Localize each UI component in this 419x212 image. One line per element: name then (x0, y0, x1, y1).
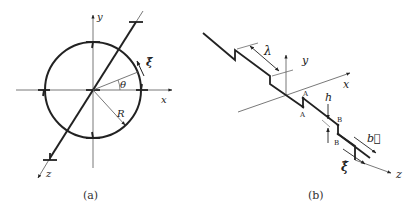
z-axis-label-b: z (395, 168, 402, 181)
burgers-vector-label: b⃗ (367, 132, 381, 145)
xi-hat-label-b: ξ̂ (341, 160, 349, 174)
radius-label: R (116, 108, 125, 119)
lambda-label: λ (263, 44, 272, 58)
lambda-ext-1 (237, 43, 258, 49)
xi-hat-label: ξ̂ (146, 56, 153, 69)
point-a-top-label: A (302, 90, 309, 98)
kinked-dislocation (203, 33, 355, 160)
x-axis-label-b: x (343, 78, 350, 91)
figure-canvas: y x z ξ̂ θ R (a) λ y x z A A B B (0, 0, 419, 212)
point-a-bottom-label: A (299, 111, 306, 119)
point-b-bottom (337, 133, 340, 136)
figure-b: λ y x z A A B B h b⃗ ξ̂ (b) (203, 33, 402, 202)
h-ext-line (322, 120, 330, 127)
point-a-bottom (302, 106, 305, 109)
figure-a: y x z ξ̂ θ R (a) (16, 11, 172, 202)
x-axis-b (238, 73, 350, 112)
dislocation-tail (338, 134, 370, 158)
caption-b: (b) (308, 189, 324, 202)
line-extension (136, 11, 143, 22)
lambda-ext-2 (272, 70, 293, 76)
theta-label: θ (120, 79, 126, 90)
caption-a: (a) (83, 189, 98, 202)
h-label: h (325, 91, 332, 104)
y-axis-label: y (96, 11, 103, 22)
point-b-bottom-label: B (334, 139, 339, 147)
z-axis-b (355, 160, 391, 173)
z-axis-label: z (45, 168, 52, 179)
point-b-top (337, 124, 340, 127)
y-axis-label-b: y (301, 54, 309, 67)
x-axis-label: x (161, 94, 167, 105)
point-b-top-label: B (337, 116, 342, 124)
